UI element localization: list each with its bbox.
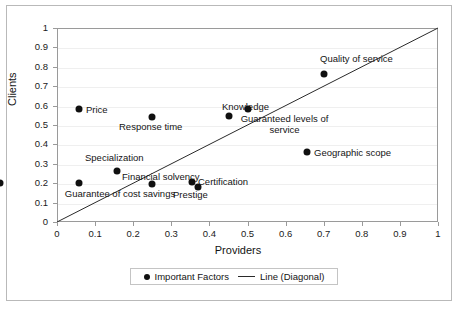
xtick-label-0.6: 0.6 [271, 229, 301, 239]
data-label-response-time: Response time [119, 121, 182, 132]
ytick-mark-0.6 [53, 106, 57, 107]
ytick-label-1: 1 [18, 23, 48, 33]
data-point-guarantee-of-cost-savings-2 [75, 180, 82, 187]
ytick-label-0.8: 0.8 [18, 62, 48, 72]
data-label-guaranteed-levels-of-service: Guaranteed levels of service [232, 113, 337, 135]
data-label-specialization: Specialization [85, 152, 144, 163]
xtick-label-0.4: 0.4 [194, 229, 224, 239]
xtick-mark-0.6 [286, 222, 287, 226]
data-label-price: Price [86, 104, 108, 115]
ytick-label-0: 0 [18, 217, 48, 227]
xtick-label-1: 1 [423, 229, 453, 239]
legend-entry-line-diagonal: Line (Diagonal) [238, 271, 324, 282]
data-label-certification: Certification [198, 176, 248, 187]
data-point-specialization [113, 167, 120, 174]
ytick-mark-0.4 [53, 144, 57, 145]
data-label-prestige: Prestige [173, 189, 208, 200]
ytick-mark-0.7 [53, 86, 57, 87]
xtick-label-0.2: 0.2 [118, 229, 148, 239]
xtick-mark-0.3 [171, 222, 172, 226]
ytick-label-0.5: 0.5 [18, 120, 48, 130]
xtick-mark-0.9 [400, 222, 401, 226]
xtick-label-0: 0 [42, 229, 72, 239]
data-label-financial-solvency: Financial solvency [122, 171, 200, 182]
xtick-label-0.5: 0.5 [233, 229, 263, 239]
ytick-label-0.2: 0.2 [18, 178, 48, 188]
xtick-mark-0.2 [133, 222, 134, 226]
xtick-label-0.8: 0.8 [347, 229, 377, 239]
xtick-label-0.9: 0.9 [385, 229, 415, 239]
ytick-mark-1 [53, 28, 57, 29]
legend-entry-important-factors: Important Factors [144, 271, 229, 282]
xtick-mark-0 [57, 222, 58, 226]
data-label-guarantee-of-cost-savings: Guarantee of cost savings [60, 188, 180, 199]
filled-circle-marker-icon [144, 274, 150, 280]
ytick-mark-0.2 [53, 183, 57, 184]
xtick-label-0.1: 0.1 [80, 229, 110, 239]
legend-label-line-diagonal: Line (Diagonal) [260, 271, 324, 282]
data-point-response-time [149, 114, 156, 121]
data-point-quality-of-service [320, 70, 327, 77]
data-point-guarantee-of-cost-savings [0, 180, 4, 187]
ytick-mark-0.3 [53, 164, 57, 165]
line-marker-icon [238, 276, 255, 277]
data-label-geographic-scope: Geographic scope [314, 147, 391, 158]
ytick-label-0.7: 0.7 [18, 81, 48, 91]
ytick-mark-0.9 [53, 47, 57, 48]
xtick-mark-1 [438, 222, 439, 226]
ytick-mark-0.5 [53, 125, 57, 126]
scatter-chart-figure: 1 0.9 0.8 0.7 0.6 0.5 0.4 0.3 0.2 0.1 0 … [0, 0, 458, 311]
y-axis-title: Clients [6, 90, 18, 106]
xtick-mark-0.8 [362, 222, 363, 226]
ytick-mark-0.1 [53, 203, 57, 204]
xtick-label-0.7: 0.7 [309, 229, 339, 239]
xtick-mark-0.7 [324, 222, 325, 226]
data-label-quality-of-service: Quality of service [320, 53, 393, 64]
xtick-mark-0.1 [95, 222, 96, 226]
legend-label-important-factors: Important Factors [155, 271, 229, 282]
x-axis-title: Providers [178, 244, 298, 256]
ytick-label-0.9: 0.9 [18, 42, 48, 52]
ytick-label-0.4: 0.4 [18, 139, 48, 149]
ytick-mark-0.8 [53, 67, 57, 68]
chart-legend: Important Factors Line (Diagonal) [130, 268, 338, 285]
ytick-label-0.1: 0.1 [18, 198, 48, 208]
xtick-mark-0.5 [248, 222, 249, 226]
data-label-knowledge: Knowledge [222, 101, 269, 112]
data-point-price [75, 106, 82, 113]
xtick-label-0.3: 0.3 [156, 229, 186, 239]
ytick-label-0.6: 0.6 [18, 101, 48, 111]
data-point-knowledge [225, 113, 232, 120]
chart-plot-area: 1 0.9 0.8 0.7 0.6 0.5 0.4 0.3 0.2 0.1 0 … [0, 0, 458, 311]
data-point-geographic-scope [303, 149, 310, 156]
xtick-mark-0.4 [209, 222, 210, 226]
ytick-label-0.3: 0.3 [18, 159, 48, 169]
